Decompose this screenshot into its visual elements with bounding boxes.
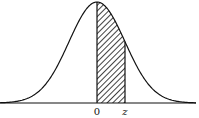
shaded-area-0-to-z [97, 2, 125, 103]
origin-label: 0 [94, 106, 100, 117]
normal-curve-diagram: 0 z [0, 0, 199, 118]
z-label: z [121, 106, 128, 117]
